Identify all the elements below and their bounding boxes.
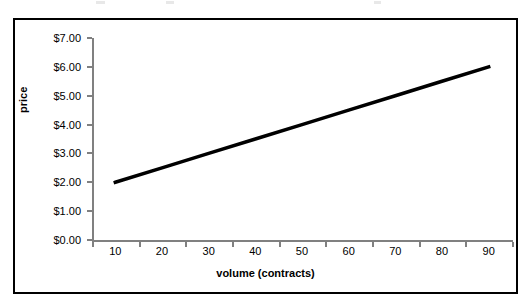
x-axis-tick-mark — [325, 242, 327, 247]
y-axis-tick-label: $4.00 — [53, 119, 81, 131]
y-axis-tick-label: $5.00 — [53, 90, 81, 102]
x-axis-tick-label: 80 — [419, 245, 466, 257]
y-axis-tick-label: $1.00 — [53, 205, 81, 217]
x-axis-tick-mark — [372, 242, 374, 247]
x-axis-tick-mark — [419, 242, 421, 247]
chart-inner: $7.00$6.00$5.00$4.00$3.00$2.00$1.00$0.00… — [15, 20, 516, 292]
x-axis-tick-mark — [185, 242, 187, 247]
y-axis-tick-label: $2.00 — [53, 176, 81, 188]
x-axis-tick-label: 60 — [325, 245, 372, 257]
y-axis-tick-label: $6.00 — [53, 61, 81, 73]
x-axis-tick-label: 90 — [465, 245, 512, 257]
x-axis-tick-mark — [232, 242, 234, 247]
x-axis-tick-label: 30 — [185, 245, 232, 257]
scan-artifact — [0, 0, 531, 6]
y-axis-tick-label: $3.00 — [53, 147, 81, 159]
x-axis-tick-mark — [92, 242, 94, 247]
x-axis-tick-mark — [465, 242, 467, 247]
x-axis-tick-mark — [512, 242, 514, 247]
x-axis-tick-label: 10 — [92, 245, 139, 257]
x-axis-tick-mark — [279, 242, 281, 247]
x-axis-tick-label: 50 — [279, 245, 326, 257]
y-axis-tick-label: $7.00 — [53, 32, 81, 44]
x-axis-tick-label: 20 — [139, 245, 186, 257]
x-axis-tick-labels: 102030405060708090 — [92, 245, 513, 263]
y-axis-tick-labels: $7.00$6.00$5.00$4.00$3.00$2.00$1.00$0.00 — [29, 38, 87, 240]
x-axis-tick-label: 40 — [232, 245, 279, 257]
y-axis-tick-label: $0.00 — [53, 234, 81, 246]
price-series-polyline — [115, 67, 488, 182]
y-axis-title: price — [17, 87, 29, 113]
x-axis-title: volume (contracts) — [15, 267, 516, 279]
data-series-line — [92, 38, 513, 241]
x-axis-tick-label: 70 — [372, 245, 419, 257]
chart-frame: $7.00$6.00$5.00$4.00$3.00$2.00$1.00$0.00… — [13, 18, 518, 294]
x-axis-tick-mark — [139, 242, 141, 247]
